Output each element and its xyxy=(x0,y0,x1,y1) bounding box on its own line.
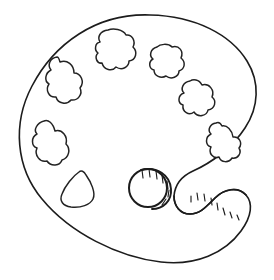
artwork-canvas xyxy=(0,0,274,280)
notch-hatch-3 xyxy=(204,194,205,201)
notch-hatch-2 xyxy=(197,193,198,200)
thumb-hole xyxy=(129,169,167,207)
paint-palette-illustration xyxy=(0,0,274,280)
paint-well-upper-right xyxy=(150,44,184,77)
